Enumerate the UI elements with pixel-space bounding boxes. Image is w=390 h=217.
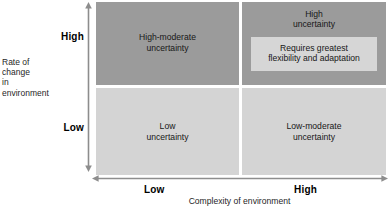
y-axis-tick-low: Low: [34, 122, 84, 133]
quadrant-low-uncertainty: Low uncertainty: [96, 88, 239, 175]
quadrant-high-moderate-label: High-moderate uncertainty: [139, 32, 196, 53]
quadrant-low-moderate-label: Low-moderate uncertainty: [287, 121, 342, 142]
quadrant-high-moderate-uncertainty: High-moderate uncertainty: [96, 2, 239, 85]
x-axis-tick-high: High: [294, 184, 317, 195]
x-axis-title: Complexity of environment: [96, 196, 383, 206]
y-axis-title: Rate of change in environment: [2, 57, 76, 98]
y-axis-arrow-icon: [85, 2, 92, 172]
x-axis-arrow-icon: [92, 175, 388, 182]
quadrant-high-uncertainty: High uncertainty Requires greatest flexi…: [242, 2, 386, 85]
figure-caption: [10, 210, 380, 217]
callout-box: Requires greatest flexibility and adapta…: [251, 37, 377, 71]
quadrant-high-uncertainty-label: High uncertainty: [293, 9, 335, 30]
quadrant-low-uncertainty-label: Low uncertainty: [146, 121, 188, 142]
matrix-grid: High-moderate uncertainty High uncertain…: [96, 2, 383, 172]
quadrant-low-moderate-uncertainty: Low-moderate uncertainty: [242, 88, 386, 175]
y-axis-tick-high: High: [34, 31, 84, 42]
uncertainty-matrix-figure: Rate of change in environment High Low H…: [0, 0, 390, 217]
x-axis-tick-low: Low: [144, 184, 165, 195]
